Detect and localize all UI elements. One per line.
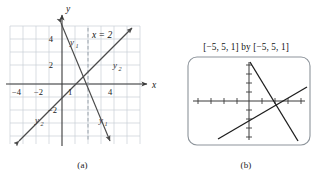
- curve-label-y1-upper-subscript: 1: [76, 42, 79, 49]
- curve-label-y2-lower-subscript: 2: [41, 120, 44, 127]
- curve-label-y1-upper-base: y: [69, 37, 74, 47]
- panel-a-graph: y x −4 −2 1 4 4 2 −2 x = 2 y 1 y 1 y: [0, 0, 165, 173]
- curve-label-y1-lower-base: y: [98, 115, 103, 125]
- curve-label-y2-lower: y 2: [34, 115, 44, 127]
- curve-label-y2-upper: y 2: [112, 60, 122, 72]
- vertical-line-label: x = 2: [91, 30, 112, 40]
- curve-label-y2-upper-subscript: 2: [119, 65, 122, 72]
- y-axis-label: y: [65, 4, 71, 14]
- curve-label-y1-lower-subscript: 1: [105, 120, 108, 127]
- x-tick-label-1: 1: [68, 87, 72, 97]
- panel-b-caption: (b): [165, 160, 327, 170]
- y-tick-label-neg2: −2: [48, 105, 57, 115]
- curve-label-y2-lower-base: y: [34, 115, 39, 125]
- panel-a-caption: (a): [0, 160, 165, 170]
- curve-label-y1-lower: y 1: [98, 115, 108, 127]
- y-tick-label-2: 2: [49, 60, 53, 70]
- panel-b-calculator: [−5, 5, 1] by [−5, 5, 1]: [165, 0, 327, 173]
- figure-root: y x −4 −2 1 4 4 2 −2 x = 2 y 1 y 1 y: [0, 0, 327, 173]
- x-tick-label-neg4: −4: [12, 87, 22, 97]
- calculator-screen-graph: [165, 0, 327, 152]
- x-tick-label-4: 4: [108, 87, 113, 97]
- x-tick-label-neg2: −2: [34, 87, 43, 97]
- x-axis-label: x: [151, 80, 157, 90]
- curve-label-y2-upper-base: y: [112, 60, 117, 70]
- coordinate-plane-graph: y x −4 −2 1 4 4 2 −2 x = 2 y 1 y 1 y: [0, 0, 165, 152]
